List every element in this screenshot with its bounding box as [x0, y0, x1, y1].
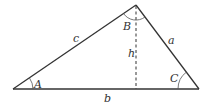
- angle-arc-A: [30, 78, 34, 89]
- label-b: b: [104, 92, 111, 105]
- angle-arc-C: [178, 72, 187, 89]
- label-h: h: [128, 47, 135, 60]
- side-a: [136, 5, 199, 89]
- label-c: c: [73, 32, 79, 45]
- label-angle-B: B: [122, 20, 131, 33]
- triangle-svg: c a b h A B C: [0, 0, 203, 106]
- side-c: [13, 5, 136, 89]
- label-angle-C: C: [170, 72, 179, 85]
- triangle-diagram: c a b h A B C: [0, 0, 203, 106]
- label-a: a: [168, 34, 175, 47]
- label-angle-A: A: [33, 78, 42, 91]
